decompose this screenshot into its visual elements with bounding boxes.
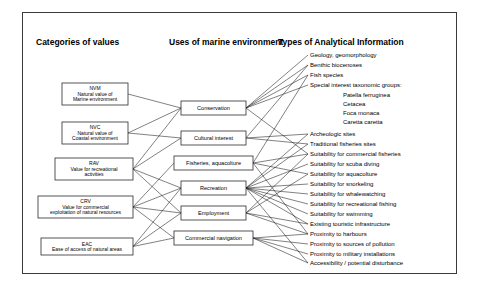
link-conservation-to-a11 xyxy=(246,108,308,154)
link-employment-to-a19 xyxy=(246,213,308,234)
diagram-page: NVMNatural value ofMarine environmentNVC… xyxy=(0,0,481,293)
analytical-item-a5: Patella ferruginea xyxy=(343,92,391,98)
link-RAV-to-recreation xyxy=(133,169,181,188)
use-label: Conservation xyxy=(197,105,230,111)
link-cultural-to-a9 xyxy=(246,134,308,138)
use-label: Recreation xyxy=(200,185,227,191)
analytical-item-a18: Existing touristic infrastructure xyxy=(310,221,391,227)
column-header-h3: Types of Analytical Information xyxy=(278,37,404,47)
link-navigation-to-a19 xyxy=(253,234,308,238)
analytical-item-a10: Traditional fisheries sites xyxy=(310,141,376,147)
use-box-employment[interactable]: Employment xyxy=(181,206,246,220)
analytical-item-a14: Suitability for snorkeling xyxy=(310,181,373,187)
nodes-layer: NVMNatural value ofMarine environmentNVC… xyxy=(38,83,253,255)
analytical-item-a1: Geology, geomorphology xyxy=(310,52,377,58)
analytical-item-a7: Foca monaca xyxy=(343,110,380,116)
analytical-item-a21: Proximity to military installations xyxy=(310,251,395,257)
use-label: Cultural interest xyxy=(194,135,234,141)
analytical-item-a22: Accessibility / potential disturbance xyxy=(310,260,404,266)
category-label-line: Ease of access of natural areas xyxy=(52,246,123,252)
category-box-crv[interactable]: CRVValue for commercialexploitation of n… xyxy=(38,196,133,218)
category-box-eac[interactable]: EACEase of access of natural areas xyxy=(41,238,133,255)
analytical-item-a9: Archeologic sites xyxy=(310,131,355,137)
category-label-line: exploitation of natural resources xyxy=(50,209,121,215)
column-header-h2: Uses of marine environment xyxy=(169,37,283,47)
analytical-item-a3: Fish species xyxy=(310,72,343,78)
analytical-item-a12: Suitability for scuba diving xyxy=(310,161,379,167)
link-NVC-to-cultural xyxy=(128,133,181,138)
analytical-item-a16: Suitability for recreational fishing xyxy=(310,201,396,207)
link-NVM-to-conservation xyxy=(128,94,181,108)
category-label-line: activities xyxy=(84,171,104,177)
use-box-navigation[interactable]: Commercial navigation xyxy=(174,231,253,245)
analytical-item-a19: Proximity to harbours xyxy=(310,231,367,237)
link-CRV-to-fisheries xyxy=(133,163,174,207)
link-fisheries-to-a13 xyxy=(253,163,308,174)
link-conservation-to-a4 xyxy=(246,85,308,108)
category-label-line: Marine environment xyxy=(73,96,118,102)
analytical-item-a15: Suitability for whalewatching xyxy=(310,191,385,197)
category-box-rav[interactable]: RAVValue for recreationalactivities xyxy=(55,158,133,180)
link-NVC-to-conservation xyxy=(128,108,181,133)
link-recreation-to-a16 xyxy=(246,188,308,204)
link-navigation-to-a22 xyxy=(253,238,308,263)
link-conservation-to-a3 xyxy=(246,75,308,108)
analytical-item-a4: Special interest taxonomic groups: xyxy=(310,82,402,88)
use-box-cultural[interactable]: Cultural interest xyxy=(181,131,246,145)
category-label-line: Coastal environment xyxy=(72,135,118,141)
column-header-h1: Categories of values xyxy=(36,37,119,47)
use-box-recreation[interactable]: Recreation xyxy=(181,181,246,195)
use-box-conservation[interactable]: Conservation xyxy=(181,101,246,115)
analytical-item-a20: Proximity to sources of pollution xyxy=(310,241,395,247)
diagram-canvas: NVMNatural value ofMarine environmentNVC… xyxy=(0,0,481,293)
link-navigation-to-a20 xyxy=(253,238,308,244)
link-navigation-to-a21 xyxy=(253,238,308,254)
link-conservation-to-a1 xyxy=(246,55,308,108)
category-box-nvm[interactable]: NVMNatural value ofMarine environment xyxy=(62,83,128,105)
link-recreation-to-a22 xyxy=(246,188,308,263)
link-recreation-to-a17 xyxy=(246,188,308,214)
analytical-item-a8: Caretta caretta xyxy=(343,119,383,125)
use-label: Fisheries, aquacolture xyxy=(186,160,241,166)
category-box-nvc[interactable]: NVCNatural value ofCoastal environment xyxy=(62,122,128,144)
analytical-item-a6: Cetacea xyxy=(343,101,366,107)
use-label: Employment xyxy=(198,210,230,216)
link-cultural-to-a10 xyxy=(246,138,308,144)
analytical-item-a17: Suitability for swimming xyxy=(310,211,373,217)
use-box-fisheries[interactable]: Fisheries, aquacolture xyxy=(174,156,253,170)
analytical-item-a2: Benthic biocenoses xyxy=(310,62,362,68)
analytical-item-a11: Suitability for commercial fisheries xyxy=(310,151,401,157)
analytical-item-a13: Suitability for aquacolture xyxy=(310,171,378,177)
use-label: Commercial navigation xyxy=(185,235,242,241)
